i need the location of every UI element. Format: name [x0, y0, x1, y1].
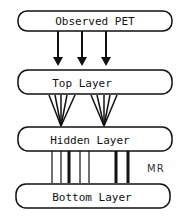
arrow-head-icon [101, 57, 111, 66]
down-arrows [53, 31, 111, 66]
arrow-head-icon [77, 57, 87, 66]
mr-label: MR [147, 163, 165, 174]
observed-pet-box: Observed PET [18, 11, 172, 31]
hidden-layer-label: Hidden Layer [50, 134, 130, 147]
layer-diagram: Observed PET Top Layer Hidden Layer [0, 0, 180, 217]
hidden-layer-box: Hidden Layer [18, 127, 172, 151]
bottom-layer-box: Bottom Layer [16, 184, 170, 208]
bottom-layer-label: Bottom Layer [52, 191, 132, 204]
arrow-head-icon [53, 57, 63, 66]
mr-connections [52, 151, 128, 183]
top-layer-label: Top Layer [52, 77, 112, 90]
fan-connections [49, 95, 117, 126]
observed-pet-label: Observed PET [55, 15, 135, 28]
top-layer-box: Top Layer [18, 70, 172, 94]
